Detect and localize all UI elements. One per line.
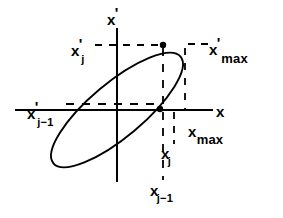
xprime-max-label-sub: max	[221, 51, 248, 66]
x-jm1-label-sub: j−1	[157, 192, 174, 204]
xprime-j-label-prime: '	[79, 35, 83, 52]
x-jm1-label: xj−1	[150, 183, 175, 202]
x-j-label: xj	[161, 146, 173, 165]
xprime-j-label-sub: j	[81, 53, 84, 65]
point-x-jm1	[157, 106, 163, 112]
x-axis-label: x	[216, 104, 225, 120]
xprime-j-label: x'j	[71, 37, 87, 63]
xprime-axis-label-prime: '	[115, 4, 119, 21]
xprime-max-label: x'max	[209, 36, 248, 62]
x-max-label-base: x	[188, 123, 197, 140]
xprime-max-label-prime: '	[217, 34, 221, 51]
xprime-axis-label: x'	[107, 6, 119, 28]
xprime-jm1-label: x'j−1	[27, 100, 56, 126]
x-axis-label-base: x	[216, 103, 225, 120]
x-max-label-sub: max	[197, 132, 224, 147]
x-j-label-sub: j	[168, 155, 171, 167]
xprime-jm1-label-sub: j−1	[37, 116, 54, 128]
point-x-j	[160, 42, 166, 48]
phase-space-figure: x' x'j x'max x'j−1 x xmax xj xj−1	[0, 0, 283, 218]
xprime-jm1-label-prime: '	[35, 98, 39, 115]
x-max-label: xmax	[188, 124, 223, 143]
